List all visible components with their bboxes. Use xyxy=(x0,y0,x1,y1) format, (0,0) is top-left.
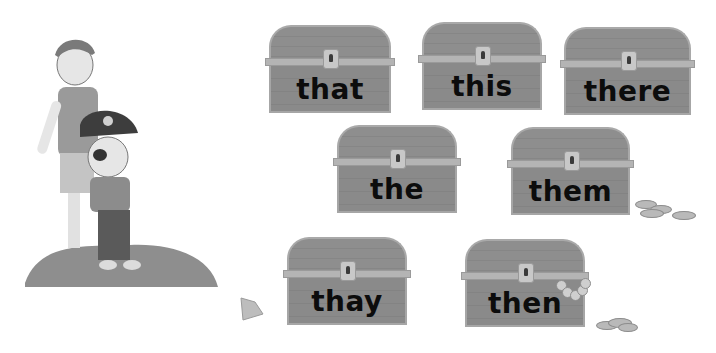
chest-word: that xyxy=(265,76,395,104)
keyhole-icon xyxy=(475,46,491,66)
keyhole-icon xyxy=(518,263,534,283)
chest-then[interactable]: then xyxy=(461,239,589,327)
chest-there[interactable]: there xyxy=(560,27,695,115)
chest-word: thay xyxy=(283,288,411,316)
chest-the[interactable]: the xyxy=(333,125,461,213)
keyhole-icon xyxy=(340,261,356,281)
chest-them[interactable]: them xyxy=(507,127,634,215)
gem-icon xyxy=(237,296,265,322)
coin-icon xyxy=(618,323,638,332)
coin-icon xyxy=(672,211,696,220)
chest-thay[interactable]: thay xyxy=(283,237,411,325)
chest-this[interactable]: this xyxy=(418,22,546,110)
keyhole-icon xyxy=(564,151,580,171)
pearl-icon xyxy=(580,278,591,289)
keyhole-icon xyxy=(390,149,406,169)
chest-word: the xyxy=(333,176,461,204)
keyhole-icon xyxy=(323,49,339,69)
pirate-kids-illustration xyxy=(20,25,220,295)
coin-icon xyxy=(640,209,664,218)
keyhole-icon xyxy=(621,51,637,71)
chest-word: them xyxy=(507,178,634,206)
chest-word: this xyxy=(418,73,546,101)
game-scene: that this there the them thay xyxy=(0,0,716,353)
chest-word: there xyxy=(560,78,695,106)
chest-that[interactable]: that xyxy=(265,25,395,113)
